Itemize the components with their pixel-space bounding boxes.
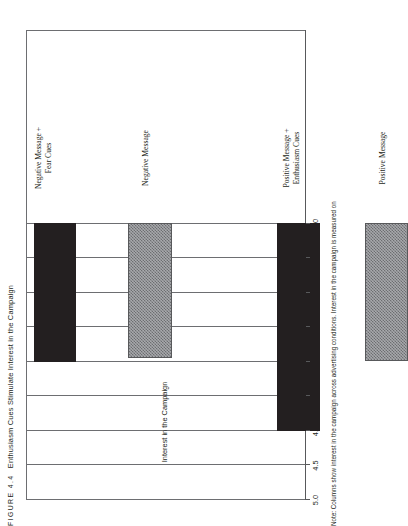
ticklabel-5-0: 5.0 (311, 495, 320, 505)
y-axis-title: Interest in the Campaign (160, 187, 169, 526)
ticklabel-1-0: 1.0 (311, 219, 320, 229)
tick-2-0 (306, 292, 310, 293)
figure-number: FIGURE 4.4 (7, 474, 14, 526)
bar-positive-message (365, 223, 408, 362)
tick-1-5 (306, 258, 310, 259)
ticklabel-4-5: 4.5 (311, 460, 320, 470)
category-label-positive-message: Positive Message (378, 98, 388, 218)
ticklabel-3-5: 3.5 (311, 391, 320, 401)
tick-2-5 (306, 327, 310, 328)
ticklabel-2-0: 2.0 (311, 288, 320, 298)
ticklabel-2-5: 2.5 (311, 322, 320, 332)
tick-5-0 (306, 499, 310, 500)
figure-note: Note: Columns show interest in the campa… (330, 0, 337, 526)
tick-4-0 (306, 430, 310, 431)
ticklabel-1-5: 1.5 (311, 253, 320, 263)
tick-4-5 (306, 465, 310, 466)
figure-title-text: Enthusiasm Cues Stimulate Interest in th… (6, 285, 15, 468)
tick-3-0 (306, 361, 310, 362)
tick-3-5 (306, 396, 310, 397)
y-axis-title-wrap: Interest in the Campaign (160, 187, 174, 526)
figure-title: FIGURE 4.4 Enthusiasm Cues Stimulate Int… (6, 0, 15, 526)
ticklabel-3-0: 3.0 (311, 357, 320, 367)
ticklabel-4-0: 4.0 (311, 426, 320, 436)
tick-1-0 (306, 223, 310, 224)
y-axis-ticks: 5.0 4.5 4.0 3.5 3.0 2.5 2.0 1.5 1.0 (26, 30, 86, 500)
